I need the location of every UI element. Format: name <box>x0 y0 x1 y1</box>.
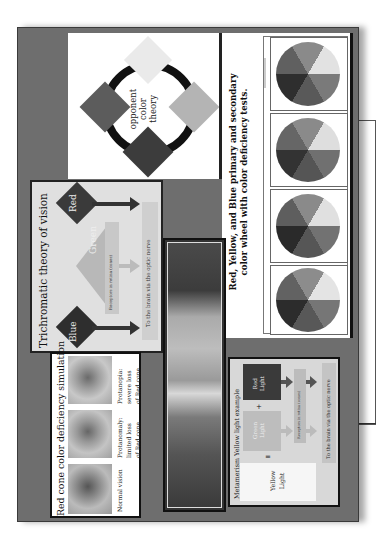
arrow-red-2-head <box>310 376 317 388</box>
metamerism-receptor-label: Receptors in retina (cones) <box>297 391 301 439</box>
red-light-label: Red Light <box>252 376 266 391</box>
color-test-title-line: color wheel with color deficiency tests. <box>239 47 250 317</box>
caption-line: Protanomaly: <box>115 417 124 458</box>
caption-line: limited loss <box>124 417 133 458</box>
wheel-cell <box>270 189 348 263</box>
color-test-panel: Red, Yellow, and Blue primary and second… <box>222 33 353 338</box>
caption-line: Protanopia: <box>115 368 124 404</box>
opponent-label: opponent color theory <box>128 83 158 135</box>
wheel-cell <box>270 113 348 187</box>
wheel-cell <box>270 37 348 111</box>
opponent-color-panel: opponent color theory <box>68 33 219 179</box>
caption-normal: Normal vision <box>115 469 124 512</box>
caption-protanopia: Protanopia: severe loss of Red cone <box>115 368 142 404</box>
wheel-cell <box>270 265 348 335</box>
label-line: Light <box>259 376 266 391</box>
color-wheel <box>276 42 340 106</box>
label-line: Light <box>277 471 286 491</box>
caption-line: Normal vision <box>115 469 124 512</box>
trichromatic-panel: Trichromatic theory of vision Red Green … <box>30 180 163 353</box>
page-outline-box <box>356 120 376 425</box>
arrow-red-head <box>130 197 140 211</box>
caption-protanomaly: Protanomaly: limited loss of Red cone <box>115 417 142 458</box>
cone-red-label: Red <box>68 194 78 212</box>
color-wheel <box>276 194 340 258</box>
label-line: Green <box>252 422 259 439</box>
arrow-red-light-head <box>286 376 293 388</box>
equals-sign: = <box>265 453 271 461</box>
red-cone-title: Red cone color deficiency simulation <box>55 351 66 516</box>
spectrum-gradient <box>167 242 222 508</box>
trichromatic-title: Trichromatic theory of vision <box>37 183 49 348</box>
plus-sign: + <box>256 403 262 411</box>
color-wheel <box>276 118 340 182</box>
simulation-image-normal <box>68 464 112 514</box>
caption-line: severe loss <box>124 368 133 404</box>
color-test-title: Red, Yellow, and Blue primary and second… <box>228 47 250 317</box>
caption-line: of Red cone <box>133 368 142 404</box>
spectrum-bar <box>163 238 226 512</box>
arrow-green-light-head <box>286 425 293 437</box>
opponent-label-line: opponent <box>128 83 138 135</box>
cone-green-label: Green <box>88 226 98 254</box>
green-light-label: Green Light <box>252 422 266 439</box>
opponent-label-line: theory <box>148 83 158 135</box>
yellow-light-label: Yellow Light <box>268 471 286 491</box>
arrow-blue-head <box>130 321 140 335</box>
wheel-label-mark <box>264 58 266 88</box>
arrow-green-2-head <box>310 425 317 437</box>
caption-line: of Red cone <box>133 417 142 458</box>
metamerism-panel: Metamerism Yellow light example Red Ligh… <box>228 357 340 507</box>
brain-label: To the brain via the optic nerve <box>145 239 151 327</box>
receptor-label: Receptors in retina (cones) <box>108 255 113 310</box>
label-line: Light <box>259 422 266 439</box>
red-cone-panel: Red cone color deficiency simulation Nor… <box>50 352 141 518</box>
arrow-blue <box>92 326 132 330</box>
simulation-image-protanopia <box>68 356 112 404</box>
metamerism-brain-label: To the brain via the optic nerve <box>325 379 331 459</box>
label-line: Red <box>252 376 259 391</box>
cone-blue-label: Blue <box>68 321 78 342</box>
color-wheel <box>276 268 340 332</box>
label-line: Yellow <box>268 471 277 491</box>
opponent-label-line: color <box>138 83 148 135</box>
arrow-green-head <box>130 259 140 273</box>
color-test-title-line: Red, Yellow, and Blue primary and second… <box>228 47 239 317</box>
arrow-red <box>92 202 132 206</box>
simulation-image-protanomaly <box>68 410 112 458</box>
